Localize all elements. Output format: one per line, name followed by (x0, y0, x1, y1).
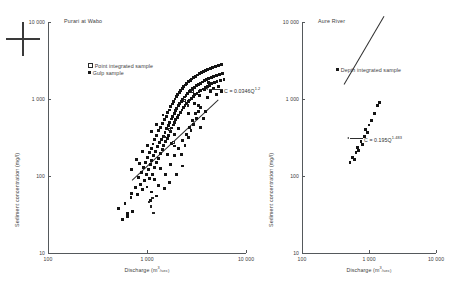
data-point-filled (164, 131, 167, 134)
data-point-filled (163, 187, 166, 190)
data-point-filled (155, 161, 158, 164)
y-axis-tick (48, 22, 51, 23)
data-point-filled (146, 144, 149, 147)
data-point-filled (349, 161, 352, 164)
data-point-filled (163, 118, 166, 121)
data-point-filled (135, 158, 138, 161)
data-point-filled (156, 145, 159, 148)
data-point-filled (220, 90, 223, 93)
data-point-filled (175, 173, 178, 176)
data-point-filled (153, 138, 156, 141)
x-axis-title: Discharge (m3/sec) (339, 266, 399, 273)
y-axis-tick (48, 253, 51, 254)
data-point-filled (157, 157, 160, 160)
y-axis-tick (48, 176, 51, 177)
data-point-filled (146, 186, 149, 189)
data-point-filled (139, 183, 142, 186)
data-point-filled (180, 153, 183, 156)
data-point-filled (153, 178, 156, 181)
data-point-filled (152, 154, 155, 157)
data-point-filled (149, 163, 152, 166)
data-point-filled (216, 80, 219, 83)
data-point-filled (167, 134, 170, 137)
y-axis-title: Sediment concentration (mg/l) (14, 153, 20, 227)
y-axis-tick-label: 100 (18, 173, 45, 179)
data-point-open (187, 104, 190, 107)
data-point-filled (373, 112, 376, 115)
data-point-filled (177, 147, 180, 150)
x-axis-line (48, 253, 246, 254)
data-point-filled (136, 193, 139, 196)
data-point-open (150, 205, 153, 208)
y-axis-tick-label: 10 000 (272, 19, 299, 25)
data-point-filled (207, 81, 210, 84)
data-point-filled (152, 143, 155, 146)
data-point-filled (171, 103, 174, 106)
y-axis-title: Sediment concentration (mg/l) (268, 153, 274, 227)
data-point-filled (150, 159, 153, 162)
data-point-filled (147, 168, 150, 171)
crosshair-vertical (22, 22, 24, 56)
x-axis-tick-label: 1 000 (355, 256, 383, 262)
x-axis-tick-label: 1 000 (133, 256, 161, 262)
plot-title: Purari at Wabo (64, 18, 102, 24)
data-point-filled (169, 105, 172, 108)
data-point-filled (378, 101, 381, 104)
x-axis-tick-label: 10 000 (232, 256, 260, 262)
data-point-filled (134, 186, 137, 189)
data-point-open (183, 99, 186, 102)
data-point-filled (368, 124, 371, 127)
data-point-filled (146, 156, 149, 159)
data-point-filled (161, 148, 164, 151)
data-point-filled (203, 88, 206, 91)
data-point-filled (124, 202, 127, 205)
plot-title: Aure River (318, 18, 345, 24)
data-point-filled (159, 167, 162, 170)
equation-leader-line (209, 89, 223, 90)
data-point-filled (117, 207, 120, 210)
data-point-filled (131, 210, 134, 213)
data-point-filled (174, 98, 177, 101)
data-point-filled (142, 166, 145, 169)
data-point-filled (166, 137, 169, 140)
data-point-filled (177, 114, 180, 117)
y-axis-tick (302, 253, 305, 254)
data-point-filled (220, 63, 223, 66)
data-point-filled (173, 154, 176, 157)
data-point-filled (154, 150, 157, 153)
y-axis-tick-label: 10 (18, 250, 45, 256)
data-point-filled (164, 173, 167, 176)
x-axis-tick (246, 250, 247, 253)
x-axis-tick (436, 250, 437, 253)
data-point-filled (361, 143, 364, 146)
data-point-filled (138, 162, 141, 165)
data-point-filled (148, 177, 151, 180)
data-point-filled (206, 96, 209, 99)
data-point-filled (162, 144, 165, 147)
data-point-filled (155, 134, 158, 137)
x-axis-tick (48, 250, 49, 253)
data-point-filled (162, 114, 165, 117)
legend-item-label: Gulp sample (93, 70, 124, 76)
data-point-filled (140, 171, 143, 174)
data-point-filled (165, 115, 168, 118)
y-axis-tick (48, 99, 51, 100)
data-point-filled (190, 129, 193, 132)
data-point-filled (223, 78, 226, 81)
x-axis-line (302, 253, 436, 254)
legend-item: Gulp sample (88, 69, 153, 76)
y-axis-tick (302, 99, 305, 100)
x-axis-tick-label: 100 (288, 256, 316, 262)
data-point-filled (173, 121, 176, 124)
data-point-filled (151, 173, 154, 176)
data-point-filled (376, 104, 379, 107)
data-point-filled (357, 149, 360, 152)
data-point-filled (202, 117, 205, 120)
data-point-filled (141, 150, 144, 153)
data-point-filled (193, 102, 196, 105)
data-point-filled (199, 126, 202, 129)
data-point-filled (159, 126, 162, 129)
data-point-filled (159, 152, 162, 155)
data-point-filled (173, 133, 176, 136)
data-point-filled (150, 191, 153, 194)
